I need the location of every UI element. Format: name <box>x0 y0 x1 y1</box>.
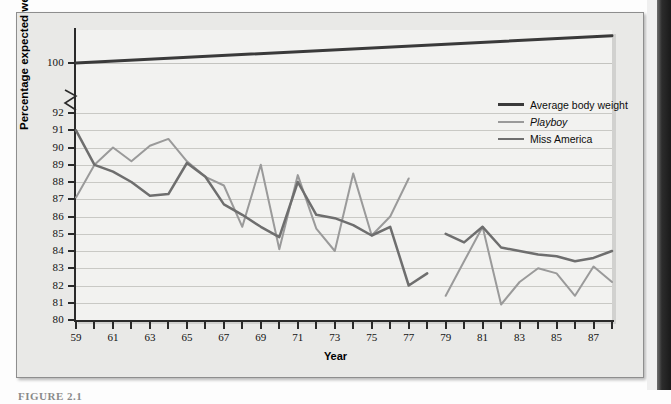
legend-item: Average body weight <box>498 96 648 113</box>
gridline <box>76 182 612 183</box>
x-tick <box>611 322 613 329</box>
x-tick-label: 87 <box>588 331 599 343</box>
x-tick-label: 73 <box>329 331 340 343</box>
x-tick-label: 79 <box>440 331 451 343</box>
legend-item: Miss America <box>498 130 648 147</box>
gridline <box>76 63 612 64</box>
gridline <box>76 286 612 287</box>
y-tick-label: 80 <box>34 313 64 325</box>
x-tick <box>112 322 114 329</box>
x-tick <box>519 322 521 329</box>
y-axis-line <box>74 28 76 322</box>
legend-label: Average body weight <box>530 99 628 111</box>
y-tick-label: 86 <box>34 210 64 222</box>
x-tick-label: 67 <box>218 331 229 343</box>
x-tick <box>223 322 225 329</box>
x-tick-label: 65 <box>181 331 192 343</box>
x-tick <box>315 322 317 329</box>
x-tick <box>278 322 280 329</box>
gridline <box>76 268 612 269</box>
legend-item: Playboy <box>498 113 648 130</box>
y-tick-label: 88 <box>34 175 64 187</box>
x-tick <box>75 322 77 329</box>
x-tick <box>371 322 373 329</box>
y-axis-title: Percentage expected weight <box>18 0 30 130</box>
x-axis-title: Year <box>0 350 671 362</box>
book-spine-shadow <box>657 0 671 390</box>
x-tick <box>500 322 502 329</box>
gridline <box>76 303 612 304</box>
x-tick-label: 63 <box>144 331 155 343</box>
y-tick-label: 100 <box>34 56 64 68</box>
x-tick <box>482 322 484 329</box>
gridline <box>76 251 612 252</box>
x-tick <box>334 322 336 329</box>
y-tick-label: 90 <box>34 141 64 153</box>
legend: Average body weightPlayboyMiss America <box>498 96 648 147</box>
x-tick <box>352 322 354 329</box>
gridline <box>76 234 612 235</box>
y-tick-label: 85 <box>34 227 64 239</box>
y-tick-label: 81 <box>34 296 64 308</box>
x-tick-label: 75 <box>366 331 377 343</box>
y-tick-label: 87 <box>34 192 64 204</box>
x-tick <box>426 322 428 329</box>
x-tick <box>445 322 447 329</box>
y-axis-break-zigzag <box>63 88 79 112</box>
x-tick <box>186 322 188 329</box>
x-tick-label: 83 <box>514 331 525 343</box>
x-tick <box>537 322 539 329</box>
figure-caption: FIGURE 2.1 <box>18 390 82 403</box>
x-tick-label: 77 <box>403 331 414 343</box>
x-tick-label: 81 <box>477 331 488 343</box>
legend-label: Miss America <box>530 133 592 145</box>
x-tick <box>556 322 558 329</box>
x-tick <box>149 322 151 329</box>
x-tick <box>204 322 206 329</box>
gridline <box>76 199 612 200</box>
x-axis-line <box>74 320 614 322</box>
y-tick-label: 84 <box>34 244 64 256</box>
x-tick <box>93 322 95 329</box>
y-tick-label: 89 <box>34 158 64 170</box>
y-tick-label: 92 <box>34 106 64 118</box>
legend-swatch <box>498 138 524 140</box>
x-tick <box>297 322 299 329</box>
x-tick <box>389 322 391 329</box>
x-tick <box>130 322 132 329</box>
plot-panel <box>74 30 612 320</box>
legend-swatch <box>498 103 524 106</box>
gridline <box>76 148 612 149</box>
y-tick-label: 82 <box>34 279 64 291</box>
x-tick <box>593 322 595 329</box>
x-tick <box>241 322 243 329</box>
x-tick <box>260 322 262 329</box>
x-tick <box>574 322 576 329</box>
y-tick-label: 91 <box>34 123 64 135</box>
page-edge-gap <box>647 0 657 390</box>
y-tick-label: 83 <box>34 261 64 273</box>
x-tick <box>463 322 465 329</box>
x-tick <box>167 322 169 329</box>
legend-swatch <box>498 121 524 123</box>
legend-label: Playboy <box>530 116 567 128</box>
x-tick <box>408 322 410 329</box>
x-tick-label: 85 <box>551 331 562 343</box>
x-tick-label: 71 <box>292 331 303 343</box>
x-tick-label: 61 <box>107 331 118 343</box>
x-tick-label: 59 <box>71 331 82 343</box>
gridline <box>76 165 612 166</box>
gridline <box>76 217 612 218</box>
x-tick-label: 69 <box>255 331 266 343</box>
